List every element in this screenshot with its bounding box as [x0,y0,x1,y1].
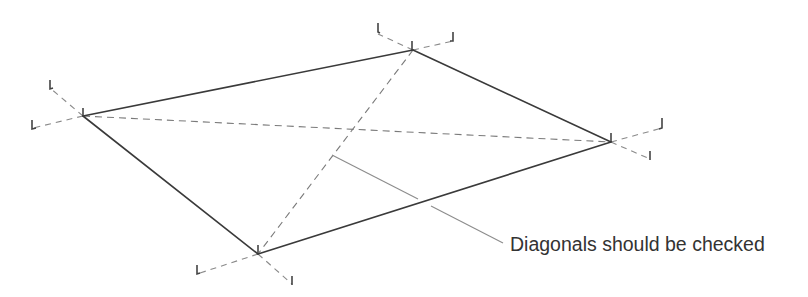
edge-b-c [413,50,611,142]
edge-d-a [83,116,258,254]
extension-line-c-lower [611,142,650,159]
tick-d-left [197,265,200,274]
extension-line-a-lower [33,116,83,128]
extension-line-b-left [378,34,413,50]
annotation-label: Diagonals should be checked [510,233,765,255]
extension-line-d-left [197,254,258,274]
tick-b-left [378,23,380,33]
leader-segment-lower [431,206,503,243]
extension-line-a-upper [50,88,83,116]
extension-line-b-right [413,41,453,50]
extension-line-c-upper [611,128,662,142]
diagonal-b-d [258,50,413,254]
layout-diagram: Diagonals should be checked [0,0,808,297]
tick-b-right [450,32,453,41]
tick-a-lower [32,120,36,129]
diagonals [83,50,611,254]
diagonal-a-c [83,116,611,142]
leader-segment-upper [332,155,418,199]
leader-line [332,155,503,243]
tick-a-upper [50,80,53,89]
edge-a-b [83,50,413,116]
rectangle-edges [83,50,611,254]
tick-c-upper [659,118,662,129]
extension-line-d-right [258,254,292,284]
